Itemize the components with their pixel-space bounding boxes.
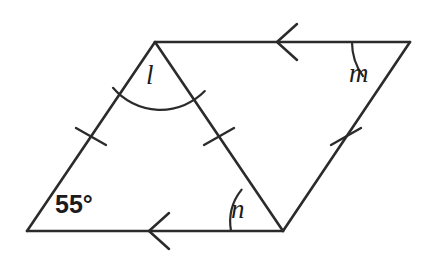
angle-arc-l (113, 88, 205, 110)
angle-label-l: l (146, 62, 154, 89)
tick-mark-left-side (76, 128, 106, 145)
geometry-figure: l m n 55° (0, 0, 435, 268)
tick-mark-right-side (331, 128, 361, 145)
angle-measure-label: 55° (55, 192, 93, 217)
tick-mark-diagonal (204, 128, 234, 145)
angle-label-n: n (231, 196, 245, 223)
geometry-diagram-svg (0, 0, 435, 268)
angle-label-m: m (349, 60, 369, 87)
